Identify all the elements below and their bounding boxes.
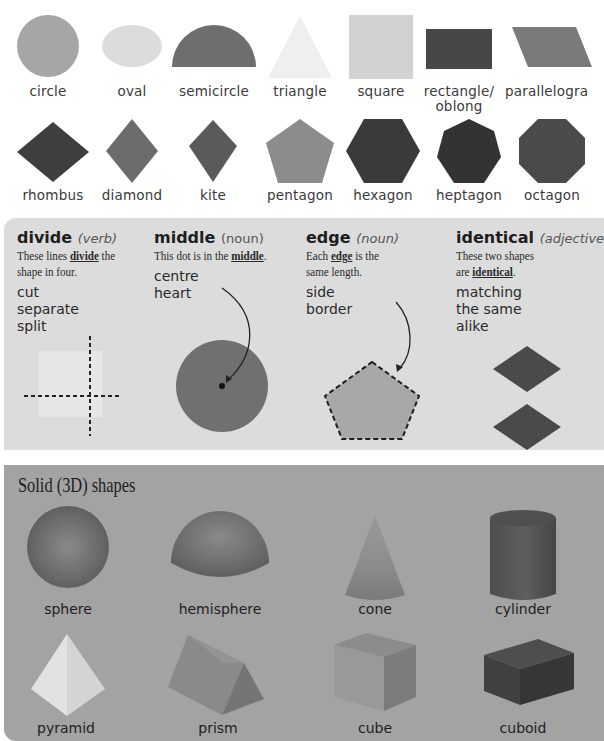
vocab-word-identical: identical (adjective (456, 228, 604, 247)
solid-label-cube: cube (335, 720, 415, 736)
vocab-sentence-middle: This dot is in the middle. (154, 248, 267, 264)
prism-shape (168, 635, 268, 720)
vocab-synonyms-identical: matching the same alike (456, 284, 522, 335)
shape-label-rectangle: rectangle/ oblong (419, 84, 499, 114)
solid-label-cone: cone (335, 601, 415, 617)
shape-label-semicircle: semicircle (172, 84, 256, 99)
solid-label-hemisphere: hemisphere (170, 601, 270, 617)
shape-label-octagon: octagon (512, 188, 592, 203)
vocabulary-panel: divide (verb) These lines divide the sha… (4, 218, 604, 450)
divided-square-illustration (24, 336, 124, 436)
part-of-speech: (verb) (78, 231, 117, 246)
pyramid-shape (31, 634, 105, 716)
vocab-word-divide: divide (verb) (17, 228, 117, 247)
solid-label-sphere: sphere (28, 601, 108, 617)
shape-label-triangle: triangle (260, 84, 340, 99)
shape-label-hexagon: hexagon (343, 188, 423, 203)
triangle-shape (268, 16, 332, 78)
pentagon-shape (266, 119, 334, 183)
highlight-word: edge (331, 248, 353, 263)
solid-label-cuboid: cuboid (483, 720, 563, 736)
shape-label-parallelogram: parallelogra (505, 84, 588, 99)
circle-shape (16, 14, 80, 78)
shape-label-diamond: diamond (92, 188, 172, 203)
oval-shape (101, 24, 163, 68)
part-of-speech: (noun) (221, 231, 264, 246)
diamond-shape (106, 119, 158, 183)
rectangle-shape (426, 29, 492, 69)
shape-label-pentagon: pentagon (260, 188, 340, 203)
heptagon-shape (437, 119, 501, 183)
semicircle-shape (172, 25, 256, 69)
vocab-sentence-identical: These two shapes are identical. (456, 248, 534, 280)
vocab-synonyms-divide: cut separate split (17, 284, 79, 335)
shape-label-rectangle-line2: oblong (435, 98, 482, 114)
parallelogram-shape (512, 27, 592, 67)
identical-rhombus-top (493, 346, 561, 392)
kite-shape (189, 120, 237, 182)
rhombus-shape (17, 122, 89, 182)
shape-label-square: square (341, 84, 421, 99)
shape-label-rhombus: rhombus (13, 188, 93, 203)
solid-shapes-title: Solid (3D) shapes (18, 473, 135, 498)
circle-with-centre-dot-illustration (174, 286, 274, 446)
part-of-speech: (noun) (356, 231, 399, 246)
highlight-word: middle (231, 248, 264, 263)
sphere-shape (26, 505, 110, 589)
identical-rhombus-bottom (493, 404, 561, 450)
shape-label-kite: kite (173, 188, 253, 203)
solid-label-prism: prism (170, 720, 266, 736)
shape-label-rectangle-line1: rectangle/ (424, 83, 494, 99)
vocab-sentence-edge: Each edge is the same length. (306, 248, 379, 280)
cone-shape (343, 515, 407, 603)
part-of-speech: (adjective (540, 231, 604, 246)
cylinder-shape (490, 510, 556, 604)
pentagon-dashed-edge-illustration (322, 302, 432, 442)
solid-label-cylinder: cylinder (483, 601, 563, 617)
highlight-word: divide (70, 248, 99, 263)
hexagon-shape (346, 119, 420, 183)
cuboid-shape (484, 639, 576, 707)
solid-shapes-panel: Solid (3D) shapes sphere hemisphere cone… (4, 465, 604, 741)
shape-label-circle: circle (8, 84, 88, 99)
square-shape (349, 15, 413, 79)
shape-label-heptagon: heptagon (429, 188, 509, 203)
highlight-word: identical (472, 264, 513, 279)
hemisphere-shape (171, 511, 269, 581)
solid-label-pyramid: pyramid (26, 720, 106, 736)
shape-label-oval: oval (92, 84, 172, 99)
octagon-shape (519, 119, 585, 183)
vocab-word-edge: edge (noun) (306, 228, 399, 247)
vocab-sentence-divide: These lines divide the shape in four. (17, 248, 115, 280)
vocab-word-middle: middle (noun) (154, 228, 264, 247)
cube-shape (334, 633, 418, 711)
